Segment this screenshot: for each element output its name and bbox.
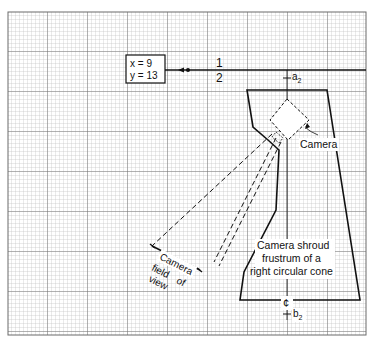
point-b-subscript: 2 (299, 314, 303, 321)
camera-label: Camera (300, 138, 338, 150)
point-a-subscript: 2 (298, 77, 302, 84)
centerline-symbol: ¢ (283, 297, 289, 309)
fraction-denominator: 2 (216, 71, 223, 85)
graph-paper-grid (8, 12, 366, 335)
point-dot-icon (186, 68, 190, 72)
shroud-label-line2: frustrum of a (262, 252, 321, 264)
y-coordinate-label: y = 13 (130, 70, 158, 81)
x-coordinate-label: x = 9 (130, 58, 152, 69)
fraction-numerator: 1 (216, 56, 223, 70)
shroud-label-line3: right circular cone (250, 265, 333, 277)
drawing-canvas: x = 9 y = 13 1 2 a2 Camera (0, 0, 374, 349)
shroud-label-line1: Camera shroud (257, 239, 330, 251)
shroud-label: Camera shroud frustrum of a right circul… (250, 239, 335, 279)
coordinate-box: x = 9 y = 13 (126, 55, 165, 83)
fraction-label: 1 2 (216, 56, 223, 85)
